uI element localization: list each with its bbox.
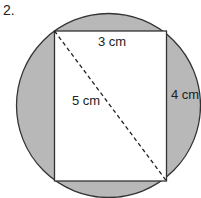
right-side-label: 4 cm <box>171 87 199 102</box>
top-side-label: 3 cm <box>98 34 126 49</box>
geometry-diagram: 2. 3 cm 4 cm 5 cm <box>0 0 201 198</box>
problem-number: 2. <box>3 2 15 18</box>
diagonal-label: 5 cm <box>72 93 100 108</box>
